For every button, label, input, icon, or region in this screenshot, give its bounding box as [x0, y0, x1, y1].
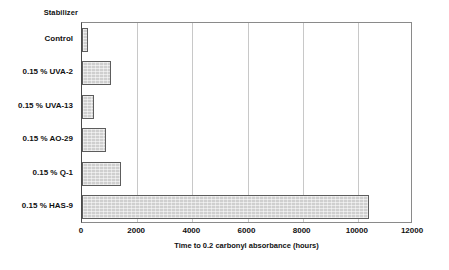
category-label: 0.15 % UVA-2	[0, 67, 73, 77]
bar	[82, 128, 106, 152]
gridline-2000	[137, 23, 138, 222]
plot-area	[81, 22, 412, 223]
gridline-8000	[303, 23, 304, 222]
x-tick-label: 8000	[293, 226, 311, 236]
category-label-column: Control0.15 % UVA-20.15 % UVA-130.15 % A…	[0, 22, 77, 223]
bar	[82, 162, 121, 186]
category-label: 0.15 % HAS-9	[0, 201, 73, 211]
x-tick-label: 0	[79, 226, 83, 236]
y-axis-title: Stabilizer	[0, 8, 78, 17]
x-tick-label: 6000	[238, 226, 256, 236]
category-label: 0.15 % UVA-13	[0, 101, 73, 111]
gridline-10000	[358, 23, 359, 222]
x-tick-label: 2000	[127, 226, 145, 236]
gridline-6000	[248, 23, 249, 222]
bar	[82, 95, 94, 119]
bar-chart: Stabilizer Control0.15 % UVA-20.15 % UVA…	[0, 0, 449, 270]
category-label: 0.15 % AO-29	[0, 134, 73, 144]
x-axis-title: Time to 0.2 carbonyl absorbance (hours)	[81, 241, 412, 251]
bar	[82, 28, 88, 52]
category-label: Control	[0, 34, 73, 44]
bar	[82, 61, 111, 85]
x-axis-tick-labels: 020004000600080001000012000	[81, 226, 412, 238]
x-tick-label: 12000	[401, 226, 423, 236]
category-label: 0.15 % Q-1	[0, 168, 73, 178]
bar	[82, 195, 369, 219]
gridline-4000	[192, 23, 193, 222]
x-tick-label: 4000	[182, 226, 200, 236]
x-tick-label: 10000	[346, 226, 368, 236]
